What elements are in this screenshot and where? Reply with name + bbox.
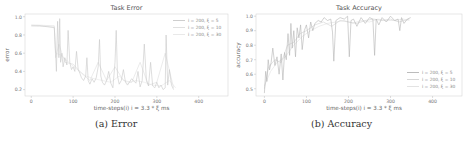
error-chart-panel: Task Error0.20.40.60.81.00100200300400ti… bbox=[0, 0, 233, 142]
chart-title: Task Error bbox=[110, 4, 143, 12]
y-axis-label: accuracy bbox=[235, 42, 242, 68]
x-tick-label: 200 bbox=[111, 99, 120, 104]
accuracy-chart: Task Accuracy0.50.60.70.80.91.0010020030… bbox=[233, 0, 467, 115]
y-axis-label: error bbox=[4, 48, 10, 62]
x-tick-label: 200 bbox=[344, 99, 353, 104]
y-tick-label: 1.0 bbox=[15, 15, 22, 20]
x-axis-label: time-steps(i) i = 3.3 * ξ ms bbox=[94, 105, 170, 112]
x-tick-label: 100 bbox=[302, 99, 311, 104]
y-tick-label: 0.2 bbox=[15, 87, 22, 92]
data-series-line bbox=[264, 19, 409, 89]
y-tick-label: 0.8 bbox=[15, 33, 22, 38]
legend-entry: i = 200, ξ = 30 bbox=[188, 32, 222, 37]
x-tick-label: 100 bbox=[69, 99, 78, 104]
x-tick-label: 300 bbox=[386, 99, 395, 104]
y-tick-label: 1.0 bbox=[246, 14, 253, 19]
y-tick-label: 0.4 bbox=[15, 69, 22, 74]
y-tick-label: 0.7 bbox=[246, 58, 253, 63]
data-series-line bbox=[264, 19, 409, 86]
accuracy-chart-caption: (b) Accuracy bbox=[311, 118, 372, 129]
y-tick-label: 0.6 bbox=[15, 51, 22, 56]
legend-entry: i = 200, ξ = 10 bbox=[188, 25, 222, 30]
y-tick-label: 0.5 bbox=[246, 87, 253, 92]
legend-entry: i = 200, ξ = 10 bbox=[422, 77, 456, 82]
data-series-line bbox=[31, 19, 173, 90]
x-tick-label: 400 bbox=[194, 99, 203, 104]
legend-entry: i = 200, ξ = 5 bbox=[188, 18, 219, 23]
legend-entry: i = 200, ξ = 5 bbox=[422, 70, 453, 75]
x-tick-label: 300 bbox=[152, 99, 161, 104]
x-tick-label: 0 bbox=[30, 99, 33, 104]
error-chart-caption: (a) Error bbox=[95, 118, 137, 129]
accuracy-chart-panel: Task Accuracy0.50.60.70.80.91.0010020030… bbox=[233, 0, 466, 142]
x-tick-label: 0 bbox=[263, 99, 266, 104]
chart-title: Task Accuracy bbox=[335, 4, 382, 12]
y-tick-label: 0.9 bbox=[246, 28, 253, 33]
legend-entry: i = 200, ξ = 30 bbox=[422, 84, 456, 89]
data-series-line bbox=[31, 26, 175, 88]
y-tick-label: 0.6 bbox=[246, 72, 253, 77]
x-axis-label: time-steps(i) i = 3.3 * ξ ms bbox=[326, 105, 402, 112]
error-chart: Task Error0.20.40.60.81.00100200300400ti… bbox=[0, 0, 233, 115]
y-tick-label: 0.8 bbox=[246, 43, 253, 48]
data-series-line bbox=[264, 16, 410, 93]
x-tick-label: 400 bbox=[428, 99, 437, 104]
